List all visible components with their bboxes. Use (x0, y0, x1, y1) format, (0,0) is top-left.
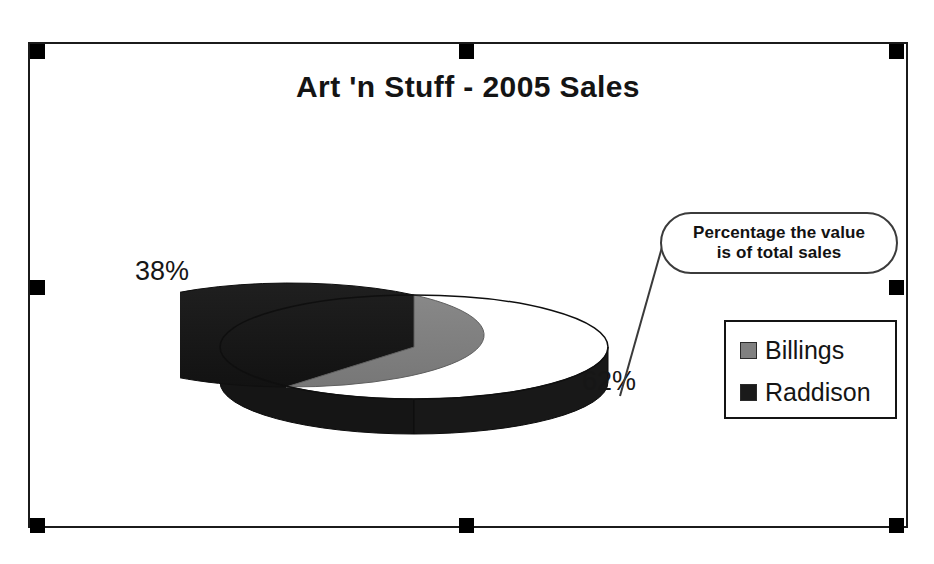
chart-object[interactable]: Art 'n Stuff - 2005 Sales (28, 42, 908, 528)
callout-line-2: is of total sales (693, 243, 865, 263)
selection-handle-top-center[interactable] (459, 44, 474, 59)
callout-text: Percentage the value is of total sales (693, 223, 865, 263)
selection-handle-bottom-left[interactable] (30, 518, 45, 533)
legend-item-raddison[interactable]: Raddison (740, 371, 895, 413)
data-label-raddison[interactable]: 38% (135, 256, 189, 287)
selection-handle-top-right[interactable] (889, 44, 904, 59)
chart-title[interactable]: Art 'n Stuff - 2005 Sales (30, 70, 906, 104)
legend-item-billings[interactable]: Billings (740, 329, 895, 371)
chart-legend[interactable]: Billings Raddison (724, 320, 897, 419)
callout-line-1: Percentage the value (693, 223, 865, 243)
selection-handle-top-left[interactable] (30, 44, 45, 59)
legend-label-billings: Billings (765, 338, 844, 363)
selection-handle-bottom-right[interactable] (889, 518, 904, 533)
pie-chart-graphic[interactable] (180, 239, 620, 454)
legend-swatch-raddison (740, 384, 757, 401)
legend-label-raddison: Raddison (765, 380, 871, 405)
selection-handle-middle-right[interactable] (889, 280, 904, 295)
legend-swatch-billings (740, 342, 757, 359)
callout-bubble[interactable]: Percentage the value is of total sales (660, 212, 898, 274)
selection-handle-bottom-center[interactable] (459, 518, 474, 533)
selection-handle-middle-left[interactable] (30, 280, 45, 295)
